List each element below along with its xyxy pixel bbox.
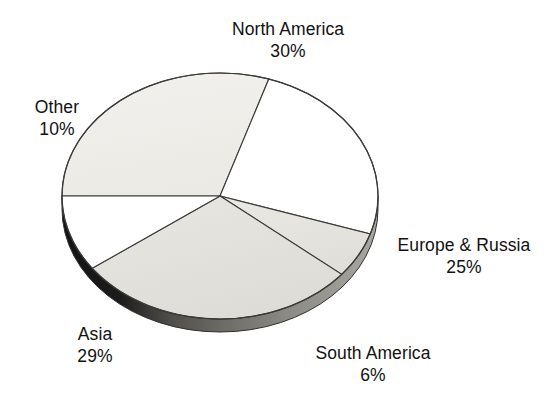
pie-label-south-america-value: 6% bbox=[288, 364, 458, 386]
pie-label-other-name: Other bbox=[2, 96, 112, 118]
pie-chart-figure: North America 30% Other 10% Europe & Rus… bbox=[0, 0, 549, 407]
pie-label-north-america-name: North America bbox=[178, 18, 398, 40]
pie-label-north-america: North America 30% bbox=[178, 18, 398, 63]
pie-label-other-value: 10% bbox=[2, 118, 112, 140]
pie-label-europe-russia-value: 25% bbox=[380, 256, 548, 278]
pie-label-asia: Asia 29% bbox=[40, 323, 150, 368]
pie-label-asia-value: 29% bbox=[40, 345, 150, 367]
pie-label-south-america: South America 6% bbox=[288, 342, 458, 387]
pie-label-other: Other 10% bbox=[2, 96, 112, 141]
pie-label-asia-name: Asia bbox=[40, 323, 150, 345]
pie-label-north-america-value: 30% bbox=[178, 40, 398, 62]
pie-label-europe-russia-name: Europe & Russia bbox=[380, 234, 548, 256]
pie-label-south-america-name: South America bbox=[288, 342, 458, 364]
pie-label-europe-russia: Europe & Russia 25% bbox=[380, 234, 548, 279]
